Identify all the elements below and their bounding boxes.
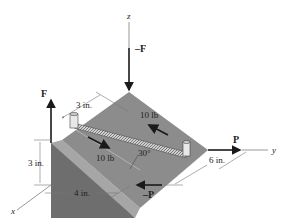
left-post — [70, 112, 78, 128]
dim-width-label: 4 in. — [74, 188, 90, 198]
force-label-f: F — [41, 88, 47, 99]
force-diagram: z –F F P y –P 10 lb 10 lb 30° 3 in. 3 in — [0, 0, 292, 224]
spring-force-label-upper: 10 lb — [140, 110, 159, 120]
x-axis-label: x — [10, 206, 15, 216]
force-label-p: P — [233, 134, 239, 145]
right-post — [183, 141, 190, 157]
x-axis — [17, 185, 51, 210]
dim-height-label: 3 in. — [28, 158, 44, 168]
force-label-neg-f: –F — [134, 43, 146, 54]
dim-post-offset-label: 3 in. — [76, 100, 92, 110]
angle-label: 30° — [138, 148, 151, 158]
spring-force-label-lower: 10 lb — [96, 153, 115, 163]
force-label-neg-p: –P — [142, 189, 154, 200]
dim-depth-label: 6 in. — [209, 155, 225, 165]
z-axis-label: z — [126, 11, 131, 21]
y-axis-label: y — [271, 145, 276, 155]
